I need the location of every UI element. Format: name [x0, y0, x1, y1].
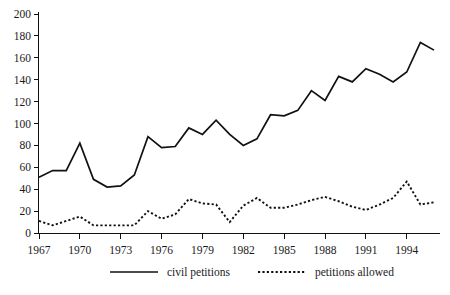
y-tick-label: 40: [20, 183, 32, 195]
x-axis-tick-labels: 1967197019731976197919821985198819911994: [28, 244, 419, 256]
y-tick-label: 100: [14, 118, 32, 130]
x-axis-tick-marks: [39, 234, 407, 240]
y-axis-tick-marks: [34, 14, 39, 233]
legend-label: civil petitions: [167, 266, 230, 279]
x-tick-label: 1976: [150, 244, 173, 256]
chart-container: 020406080100120140160180200 196719701973…: [0, 0, 450, 295]
x-tick-label: 1973: [109, 244, 132, 256]
y-tick-label: 180: [14, 30, 32, 42]
y-tick-label: 80: [20, 139, 32, 151]
line-chart: 020406080100120140160180200 196719701973…: [0, 0, 450, 295]
y-tick-label: 120: [14, 96, 32, 108]
x-tick-label: 1982: [232, 244, 255, 256]
x-tick-label: 1970: [68, 244, 91, 256]
y-tick-label: 200: [14, 8, 32, 20]
series-line-civil-petitions: [39, 42, 434, 187]
x-tick-label: 1985: [273, 244, 296, 256]
chart-legend: civil petitionspetitions allowed: [110, 266, 394, 279]
y-tick-label: 160: [14, 52, 32, 64]
x-tick-label: 1991: [354, 244, 377, 256]
x-tick-label: 1979: [191, 244, 214, 256]
legend-label: petitions allowed: [315, 266, 394, 279]
y-tick-label: 140: [14, 74, 32, 86]
y-tick-label: 0: [25, 227, 31, 239]
x-tick-label: 1988: [314, 244, 337, 256]
x-tick-label: 1994: [395, 244, 418, 256]
series-line-petitions-allowed: [39, 182, 434, 226]
y-tick-label: 20: [20, 205, 32, 217]
y-axis-tick-labels: 020406080100120140160180200: [14, 8, 32, 239]
x-tick-label: 1967: [28, 244, 51, 256]
y-tick-label: 60: [20, 161, 32, 173]
